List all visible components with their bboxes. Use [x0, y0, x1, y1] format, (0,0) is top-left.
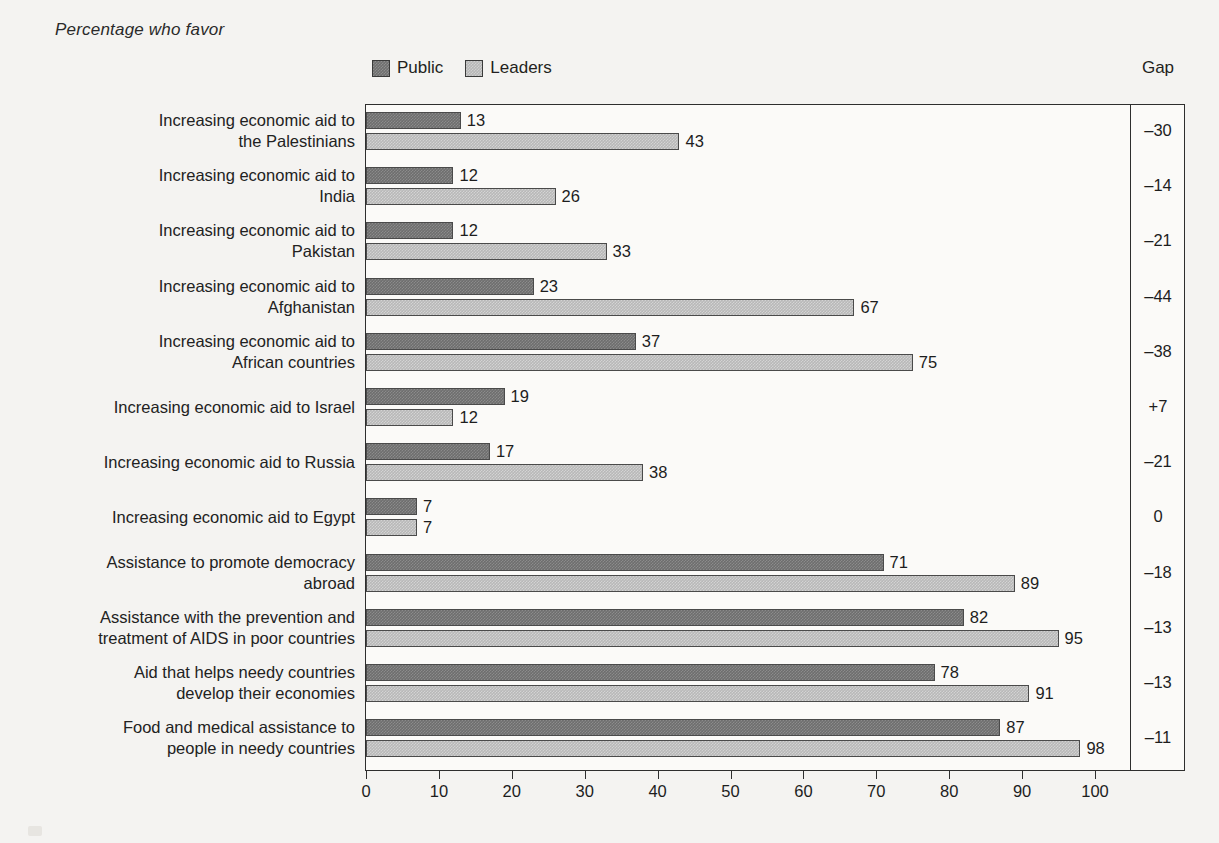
axis-tick-label: 70	[867, 782, 885, 801]
bar-group-row: Increasing economic aid to Afghanistan23…	[0, 278, 1219, 333]
bar-public[interactable]	[366, 554, 884, 571]
legend-item-public: Public	[372, 58, 443, 78]
bar-value-label: 89	[1021, 575, 1039, 592]
gap-value: –38	[1130, 342, 1186, 361]
axis-tick-label: 80	[940, 782, 958, 801]
bar-group-row: Assistance with the prevention and treat…	[0, 609, 1219, 664]
category-label: Assistance to promote democracy abroad	[15, 552, 355, 594]
bar-value-label: 12	[459, 409, 477, 426]
bar-value-label: 75	[919, 354, 937, 371]
bar-leaders[interactable]	[366, 133, 679, 150]
bar-group-row: Increasing economic aid to the Palestini…	[0, 112, 1219, 167]
gap-value: –18	[1130, 563, 1186, 582]
category-label: Increasing economic aid to Pakistan	[15, 220, 355, 262]
bar-value-label: 37	[642, 333, 660, 350]
bar-leaders[interactable]	[366, 740, 1080, 757]
category-label: Aid that helps needy countries develop t…	[15, 662, 355, 704]
bar-group-row: Assistance to promote democracy abroad71…	[0, 554, 1219, 609]
bar-value-label: 91	[1035, 685, 1053, 702]
bar-public[interactable]	[366, 719, 1000, 736]
gap-column-header: Gap	[1130, 58, 1186, 78]
bar-leaders[interactable]	[366, 299, 854, 316]
bar-value-label: 71	[890, 554, 908, 571]
category-label: Increasing economic aid to Russia	[15, 452, 355, 473]
axis-tick	[512, 771, 513, 779]
bar-group-row: Increasing economic aid to Pakistan1233–…	[0, 222, 1219, 277]
gap-value: –30	[1130, 121, 1186, 140]
legend-label-leaders: Leaders	[490, 58, 551, 78]
axis-tick	[876, 771, 877, 779]
category-label: Food and medical assistance to people in…	[15, 717, 355, 759]
bar-group-row: Increasing economic aid to African count…	[0, 333, 1219, 388]
axis-tick	[803, 771, 804, 779]
axis-tick-label: 10	[430, 782, 448, 801]
bar-value-label: 19	[511, 388, 529, 405]
axis-tick-label: 50	[721, 782, 739, 801]
axis-tick	[366, 771, 367, 779]
bar-value-label: 38	[649, 464, 667, 481]
bar-value-label: 95	[1065, 630, 1083, 647]
category-label: Increasing economic aid to African count…	[15, 331, 355, 373]
gap-value: 0	[1130, 507, 1186, 526]
legend-swatch-icon	[372, 60, 390, 77]
bar-value-label: 43	[685, 133, 703, 150]
axis-tick	[585, 771, 586, 779]
bar-public[interactable]	[366, 333, 636, 350]
gap-value: +7	[1130, 397, 1186, 416]
bar-value-label: 98	[1086, 740, 1104, 757]
bar-leaders[interactable]	[366, 685, 1029, 702]
bar-value-label: 12	[459, 222, 477, 239]
axis-tick	[439, 771, 440, 779]
bar-public[interactable]	[366, 388, 505, 405]
bar-public[interactable]	[366, 112, 461, 129]
bar-leaders[interactable]	[366, 575, 1015, 592]
bar-leaders[interactable]	[366, 188, 556, 205]
bar-public[interactable]	[366, 609, 964, 626]
bar-public[interactable]	[366, 443, 490, 460]
x-axis: 0102030405060708090100	[365, 771, 1186, 831]
page-title: Percentage who favor	[55, 20, 224, 40]
bar-leaders[interactable]	[366, 519, 417, 536]
axis-tick-label: 90	[1013, 782, 1031, 801]
bar-leaders[interactable]	[366, 243, 607, 260]
bar-value-label: 67	[860, 299, 878, 316]
bar-leaders[interactable]	[366, 630, 1059, 647]
axis-tick-label: 100	[1081, 782, 1109, 801]
bar-value-label: 23	[540, 278, 558, 295]
bar-leaders[interactable]	[366, 464, 643, 481]
bar-group-row: Aid that helps needy countries develop t…	[0, 664, 1219, 719]
gap-value: –13	[1130, 618, 1186, 637]
bar-public[interactable]	[366, 222, 453, 239]
bar-public[interactable]	[366, 167, 453, 184]
legend-label-public: Public	[397, 58, 443, 78]
legend-swatch-icon	[465, 60, 483, 77]
bar-rows-container: Increasing economic aid to the Palestini…	[0, 104, 1219, 771]
axis-tick	[1095, 771, 1096, 779]
gap-value: –21	[1130, 231, 1186, 250]
bar-leaders[interactable]	[366, 354, 913, 371]
axis-tick-label: 20	[503, 782, 521, 801]
axis-tick-label: 40	[648, 782, 666, 801]
chart-legend: Public Leaders	[372, 58, 552, 78]
scan-artifact	[28, 826, 42, 836]
gap-value: –11	[1130, 728, 1186, 747]
bar-value-label: 12	[459, 167, 477, 184]
bar-public[interactable]	[366, 278, 534, 295]
category-label: Increasing economic aid to Israel	[15, 397, 355, 418]
category-label: Increasing economic aid to Egypt	[15, 507, 355, 528]
axis-tick-label: 30	[576, 782, 594, 801]
axis-tick	[731, 771, 732, 779]
bar-group-row: Increasing economic aid to Russia1738–21	[0, 443, 1219, 498]
bar-value-label: 7	[423, 519, 432, 536]
bar-value-label: 17	[496, 443, 514, 460]
bar-value-label: 78	[941, 664, 959, 681]
category-label: Increasing economic aid to India	[15, 165, 355, 207]
bar-group-row: Increasing economic aid to India1226–14	[0, 167, 1219, 222]
bar-public[interactable]	[366, 498, 417, 515]
axis-tick	[658, 771, 659, 779]
bar-group-row: Increasing economic aid to Israel1912+7	[0, 388, 1219, 443]
bar-value-label: 82	[970, 609, 988, 626]
bar-public[interactable]	[366, 664, 935, 681]
axis-tick	[1022, 771, 1023, 779]
bar-leaders[interactable]	[366, 409, 453, 426]
